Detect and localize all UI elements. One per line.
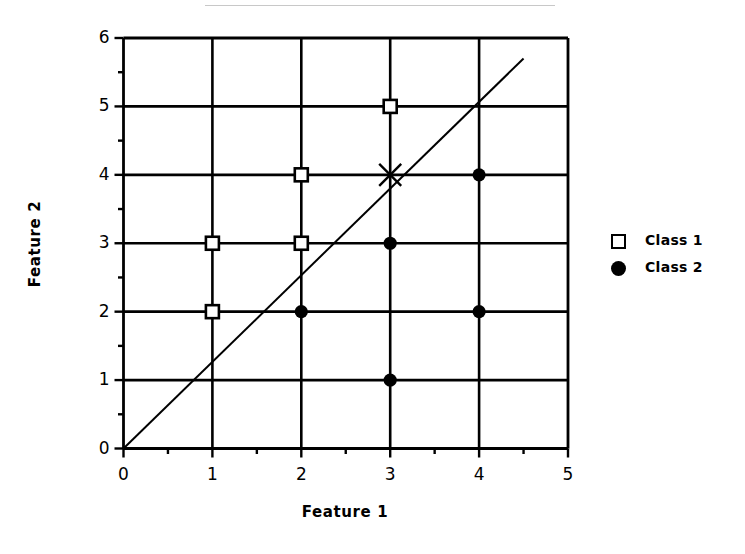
data-point: [295, 305, 308, 318]
x-tick-label: 0: [109, 464, 139, 484]
legend-item-class-2: Class 2: [607, 253, 737, 280]
y-tick-label: 2: [86, 301, 110, 321]
data-point: [206, 305, 219, 318]
data-point: [384, 100, 397, 113]
data-point: [473, 305, 486, 318]
filled-circle-marker: [473, 168, 486, 181]
y-tick-label: 1: [86, 369, 110, 389]
decision-boundary: [124, 59, 524, 449]
x-axis-title: Feature 1: [0, 503, 690, 521]
open-square-marker: [206, 305, 219, 318]
open-square-marker: [295, 168, 308, 181]
x-tick-label: 2: [286, 464, 316, 484]
y-tick-label: 0: [86, 438, 110, 458]
open-square-marker: [206, 237, 219, 250]
data-point: [295, 237, 308, 250]
y-axis-title: Feature 2: [26, 164, 44, 324]
filled-circle-marker: [384, 237, 397, 250]
open-square-marker: [295, 237, 308, 250]
scatter-plot-figure: 012345 0123456 Feature 1 Feature 2 Class…: [0, 0, 745, 554]
filled-circle-icon: [607, 256, 629, 278]
gridlines: [124, 38, 569, 449]
filled-circle-marker: [384, 373, 397, 386]
open-square-icon: [607, 229, 629, 251]
x-tick-label: 1: [197, 464, 227, 484]
data-point: [473, 168, 486, 181]
data-point: [384, 237, 397, 250]
y-tick-label: 5: [86, 95, 110, 115]
x-tick-label: 4: [464, 464, 494, 484]
legend-label-class-1: Class 1: [645, 232, 703, 248]
annotation-layer: [124, 59, 524, 449]
legend: Class 1 Class 2: [607, 226, 737, 280]
y-tick-label: 6: [86, 27, 110, 47]
open-square-marker: [384, 100, 397, 113]
legend-label-class-2: Class 2: [645, 259, 703, 275]
filled-circle-marker: [295, 305, 308, 318]
y-tick-label: 3: [86, 232, 110, 252]
data-point: [295, 168, 308, 181]
y-tick-label: 4: [86, 164, 110, 184]
legend-item-class-1: Class 1: [607, 226, 737, 253]
axis-ticks: [115, 38, 569, 458]
filled-circle-marker: [473, 305, 486, 318]
x-tick-label: 5: [553, 464, 583, 484]
data-point: [384, 373, 397, 386]
x-tick-label: 3: [375, 464, 405, 484]
data-point: [206, 237, 219, 250]
